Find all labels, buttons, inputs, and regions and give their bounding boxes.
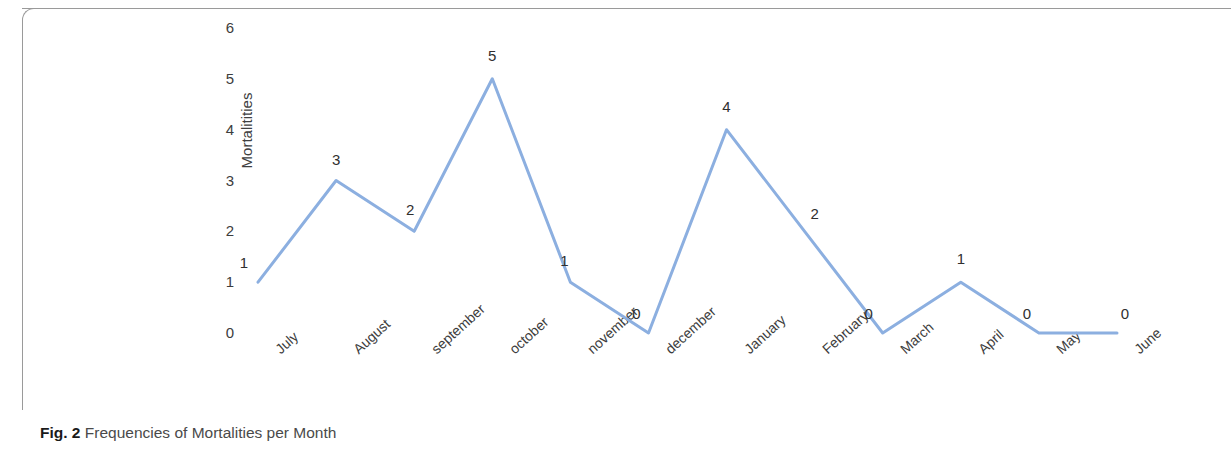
- chart-plot-area: Mortalitities 0123456 JulyAugustseptembe…: [0, 0, 1231, 410]
- data-point-label: 1: [560, 252, 568, 269]
- figure-caption: Fig. 2 Frequencies of Mortalities per Mo…: [40, 424, 336, 442]
- data-point-label: 2: [810, 205, 818, 222]
- data-point-label: 4: [722, 97, 730, 114]
- data-point-label: 0: [1023, 305, 1031, 322]
- figure-caption-text: Frequencies of Mortalities per Month: [85, 424, 337, 441]
- data-point-label: 0: [632, 305, 640, 322]
- data-point-label: 1: [240, 254, 248, 271]
- data-point-label: 1: [957, 250, 965, 267]
- data-point-label: 5: [488, 46, 496, 63]
- figure-root: Mortalitities 0123456 JulyAugustseptembe…: [0, 0, 1231, 456]
- data-point-label: 0: [1121, 305, 1129, 322]
- data-point-label: 2: [406, 201, 414, 218]
- data-point-label: 0: [865, 305, 873, 322]
- figure-number: Fig. 2: [40, 424, 80, 441]
- data-point-label: 3: [332, 150, 340, 167]
- series-line-mortalities: [258, 79, 1117, 333]
- series-line-svg: [0, 0, 1231, 410]
